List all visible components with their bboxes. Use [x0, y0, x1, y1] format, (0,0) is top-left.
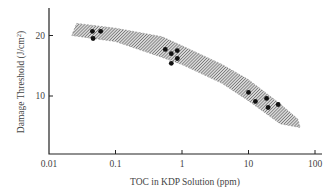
x-axis-title: TOC in KDP Solution (ppm)	[130, 177, 240, 188]
data-point	[163, 47, 168, 52]
hatched-band	[72, 23, 300, 127]
data-point	[175, 48, 180, 53]
data-point	[253, 99, 258, 104]
data-point	[276, 102, 281, 107]
x-tick-label: 0.1	[110, 159, 122, 169]
data-point	[264, 96, 269, 101]
data-point	[90, 29, 95, 34]
data-point	[175, 56, 180, 61]
trend-band	[72, 23, 300, 127]
y-axis-title-end: )	[16, 31, 27, 34]
data-point	[169, 51, 174, 56]
x-tick-label: 0.01	[41, 159, 58, 169]
data-point	[169, 61, 174, 66]
data-point	[91, 36, 96, 41]
y-axis-title: Damage Threshold (J/cm2)	[15, 31, 28, 133]
x-tick-label: 1	[180, 159, 185, 169]
x-tick-label: 100	[308, 159, 323, 169]
data-point	[266, 105, 271, 110]
y-tick-label: 20	[36, 31, 46, 41]
data-point	[246, 90, 251, 95]
y-axis-title-main: Damage Threshold (J/cm	[16, 37, 27, 133]
y-tick-label: 10	[36, 91, 46, 101]
chart: 0.010.11101001020 TOC in KDP Solution (p…	[0, 0, 336, 192]
data-point	[98, 29, 103, 34]
x-tick-label: 10	[244, 159, 254, 169]
